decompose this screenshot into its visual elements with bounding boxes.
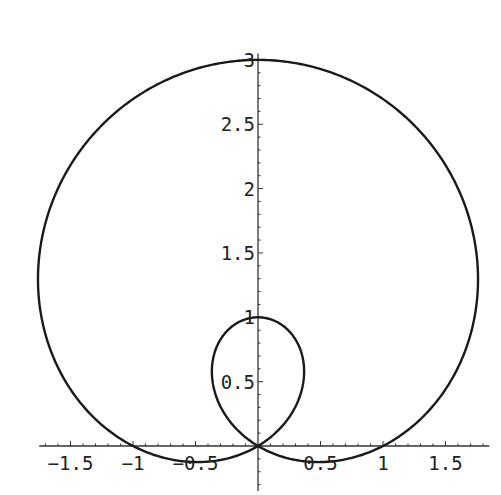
- x-tick-label: 1: [377, 452, 388, 474]
- polar-plot: −1.5−1−0.50.511.50.511.522.53: [0, 0, 501, 495]
- y-tick-label: 0.5: [221, 371, 255, 393]
- y-tick-label: 3: [244, 49, 255, 71]
- x-tick-label: −1: [122, 452, 145, 474]
- y-tick-label: 2: [244, 178, 255, 200]
- x-tick-label: −1.5: [48, 452, 94, 474]
- x-tick-label: 0.5: [303, 452, 337, 474]
- x-tick-label: 1.5: [428, 452, 462, 474]
- chart-container: −1.5−1−0.50.511.50.511.522.53: [0, 0, 501, 495]
- y-tick-label: 2.5: [221, 113, 255, 135]
- x-tick-label: −0.5: [173, 452, 219, 474]
- y-tick-label: 1: [244, 306, 255, 328]
- y-tick-label: 1.5: [221, 242, 255, 264]
